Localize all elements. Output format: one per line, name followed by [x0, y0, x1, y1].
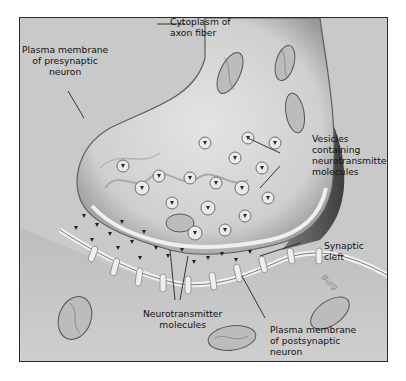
- label-postsynaptic-membrane: Plasma membrane of postsynaptic neuron: [270, 324, 356, 357]
- label-neurotransmitter-molecules: Neurotransmitter molecules: [143, 308, 222, 330]
- label-synaptic-cleft: Synaptic cleft: [324, 240, 364, 262]
- label-cytoplasm-axon-fiber: Cytoplasm of axon fiber: [170, 17, 231, 38]
- label-presynaptic-membrane: Plasma membrane of presynaptic neuron: [22, 44, 108, 77]
- illustration-frame: Cytoplasm of axon fiber Plasma membrane …: [19, 17, 388, 362]
- label-vesicles: Vesicles containing neurotransmitter mol…: [312, 133, 388, 177]
